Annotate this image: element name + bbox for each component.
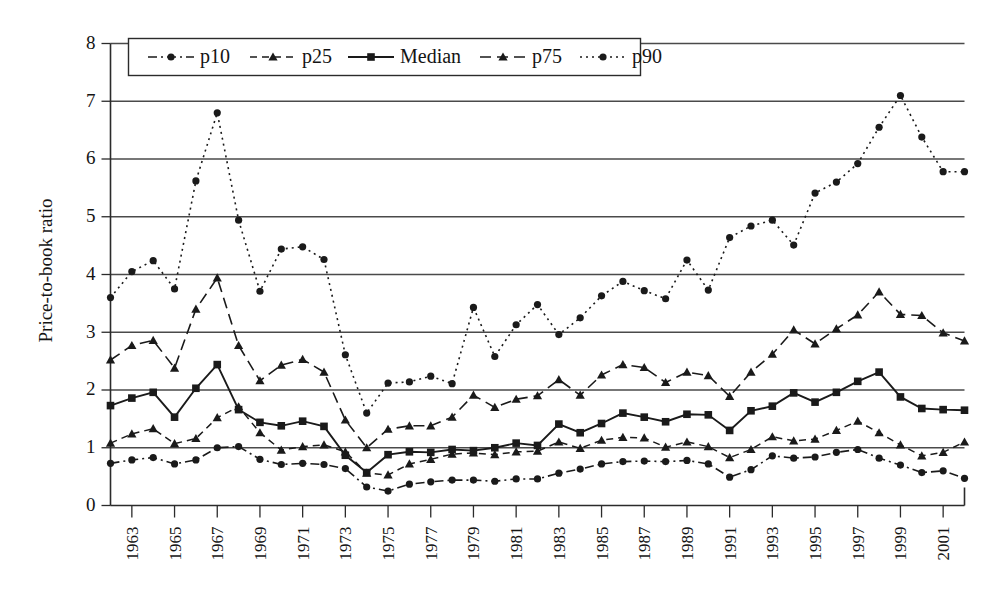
data-point-p90-1990 bbox=[705, 286, 712, 293]
y-tick-label-2: 2 bbox=[86, 378, 96, 399]
data-point-p90-1963 bbox=[128, 268, 135, 275]
data-point-p25-1987 bbox=[640, 433, 649, 441]
data-point-median-2001 bbox=[939, 406, 947, 414]
data-point-p25-2002 bbox=[960, 437, 969, 445]
data-point-p25-1975 bbox=[383, 470, 392, 478]
data-point-median-1981 bbox=[512, 439, 520, 447]
data-point-median-1964 bbox=[149, 389, 157, 397]
data-point-p10-1982 bbox=[534, 475, 541, 482]
data-point-median-1976 bbox=[406, 448, 414, 456]
x-tick-label-1997: 1997 bbox=[849, 526, 868, 561]
data-point-p75-1976 bbox=[405, 421, 414, 429]
data-point-p25-1989 bbox=[682, 437, 691, 445]
data-point-p10-2000 bbox=[918, 469, 925, 476]
data-point-p10-1967 bbox=[214, 444, 221, 451]
data-point-p25-1993 bbox=[768, 432, 777, 440]
series-line-median bbox=[111, 365, 965, 473]
data-point-p90-1999 bbox=[897, 92, 904, 99]
x-tick-label-1995: 1995 bbox=[806, 527, 825, 561]
data-point-p90-1978 bbox=[449, 380, 456, 387]
data-point-p90-2002 bbox=[961, 168, 968, 175]
data-point-p10-1973 bbox=[342, 465, 349, 472]
data-point-median-1965 bbox=[171, 413, 179, 421]
data-point-p90-1966 bbox=[192, 177, 199, 184]
y-tick-label-5: 5 bbox=[86, 205, 96, 226]
price-to-book-ratio-chart: 012345678 196319651967196919711973197519… bbox=[0, 0, 1001, 597]
data-point-p90-1998 bbox=[876, 124, 883, 131]
data-point-p10-1998 bbox=[876, 455, 883, 462]
data-point-p90-1985 bbox=[598, 292, 605, 299]
data-point-p75-1971 bbox=[298, 355, 307, 363]
data-point-median-1978 bbox=[448, 446, 456, 454]
data-point-median-1998 bbox=[875, 368, 883, 376]
x-tick-label-1969: 1969 bbox=[251, 527, 270, 561]
data-point-p75-1986 bbox=[618, 360, 627, 368]
data-point-p10-2001 bbox=[940, 467, 947, 474]
data-point-median-1979 bbox=[470, 447, 478, 455]
x-tick-label-2001: 2001 bbox=[934, 527, 953, 561]
x-tick-label-1993: 1993 bbox=[763, 527, 782, 561]
data-point-median-1975 bbox=[384, 451, 392, 459]
data-point-p90-1971 bbox=[299, 243, 306, 250]
data-point-p90-1982 bbox=[534, 301, 541, 308]
legend-label-p25: p25 bbox=[302, 45, 332, 68]
x-tick-label-1973: 1973 bbox=[336, 527, 355, 561]
data-point-p10-1997 bbox=[854, 446, 861, 453]
data-point-p75-1962 bbox=[106, 355, 115, 363]
y-tick-label-3: 3 bbox=[86, 321, 96, 342]
data-point-p75-1985 bbox=[597, 370, 606, 378]
data-point-median-1967 bbox=[213, 361, 221, 369]
data-point-p10-1964 bbox=[150, 454, 157, 461]
data-point-median-1971 bbox=[299, 417, 307, 425]
data-point-p75-1997 bbox=[853, 310, 862, 318]
data-point-p90-1989 bbox=[683, 256, 690, 263]
x-tick-label-1981: 1981 bbox=[507, 527, 526, 561]
data-point-p10-1987 bbox=[641, 457, 648, 464]
data-point-p75-1990 bbox=[704, 371, 713, 379]
data-point-median-1968 bbox=[235, 406, 243, 414]
legend-sample-marker-p10 bbox=[167, 53, 174, 60]
data-point-p90-1983 bbox=[555, 331, 562, 338]
x-tick-label-1971: 1971 bbox=[294, 527, 313, 561]
data-point-median-1972 bbox=[320, 423, 328, 431]
data-point-median-1985 bbox=[598, 420, 606, 428]
legend-label-p10: p10 bbox=[200, 45, 230, 68]
data-point-median-1977 bbox=[427, 449, 435, 457]
data-point-p25-2001 bbox=[939, 448, 948, 456]
data-point-median-1962 bbox=[107, 402, 115, 410]
data-point-p25-1992 bbox=[746, 445, 755, 453]
data-point-p10-1977 bbox=[427, 478, 434, 485]
data-point-median-1988 bbox=[662, 418, 670, 426]
y-tick-label-6: 6 bbox=[86, 147, 96, 168]
data-point-p10-1994 bbox=[790, 455, 797, 462]
data-point-p10-1985 bbox=[598, 460, 605, 467]
data-point-p90-1975 bbox=[384, 379, 391, 386]
x-tick-label-1987: 1987 bbox=[635, 526, 654, 561]
data-point-p25-1997 bbox=[853, 417, 862, 425]
data-point-p25-1985 bbox=[597, 436, 606, 444]
data-point-p25-1986 bbox=[618, 433, 627, 441]
data-point-median-1999 bbox=[897, 393, 905, 401]
data-point-p10-1965 bbox=[171, 460, 178, 467]
data-point-p10-1980 bbox=[491, 478, 498, 485]
data-point-p10-1986 bbox=[619, 458, 626, 465]
data-point-median-1989 bbox=[683, 410, 691, 418]
data-point-median-1994 bbox=[790, 389, 798, 397]
data-point-p90-1980 bbox=[491, 353, 498, 360]
chart-canvas: 012345678 196319651967196919711973197519… bbox=[0, 0, 1001, 597]
x-tick-label-1967: 1967 bbox=[208, 526, 227, 561]
data-point-p10-1993 bbox=[769, 452, 776, 459]
data-point-p90-1968 bbox=[235, 217, 242, 224]
data-point-p10-1972 bbox=[320, 461, 327, 468]
data-point-median-1966 bbox=[192, 384, 200, 392]
data-point-p10-1978 bbox=[449, 476, 456, 483]
data-point-p90-1967 bbox=[214, 109, 221, 116]
series-p25 bbox=[106, 402, 969, 478]
y-axis-ticks: 012345678 bbox=[86, 32, 111, 515]
data-point-p75-1989 bbox=[682, 367, 691, 375]
data-point-median-1986 bbox=[619, 409, 627, 417]
data-point-median-1996 bbox=[833, 389, 841, 397]
data-point-median-1969 bbox=[256, 419, 264, 427]
data-point-p10-1988 bbox=[662, 458, 669, 465]
data-point-median-1991 bbox=[726, 427, 734, 435]
